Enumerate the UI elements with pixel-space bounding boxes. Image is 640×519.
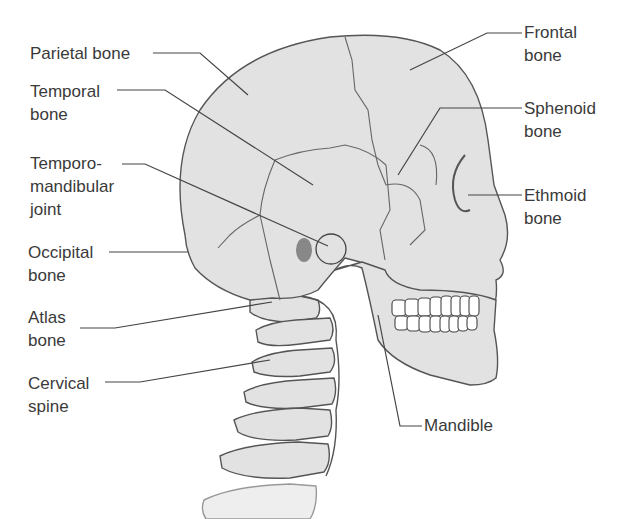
label-cervical-spine: Cervical spine: [28, 372, 89, 418]
cervical-spine-illustration: [202, 295, 339, 519]
skull-diagram: [0, 0, 640, 519]
label-sphenoid-bone: Sphenoid bone: [524, 97, 596, 143]
label-parietal-bone: Parietal bone: [30, 42, 130, 65]
ear-canal-illustration: [296, 238, 312, 262]
leader-atlas: [80, 302, 272, 328]
label-frontal-bone: Frontal bone: [524, 21, 577, 67]
leader-cervical: [105, 360, 270, 382]
label-occipital-bone: Occipital bone: [28, 241, 93, 287]
label-temporal-bone: Temporal bone: [30, 80, 100, 126]
label-ethmoid-bone: Ethmoid bone: [524, 184, 586, 230]
label-atlas-bone: Atlas bone: [28, 306, 66, 352]
cranium-illustration: [180, 35, 508, 310]
label-mandible: Mandible: [424, 414, 493, 437]
label-temporomandibular-joint: Temporo- mandibular joint: [30, 152, 114, 221]
